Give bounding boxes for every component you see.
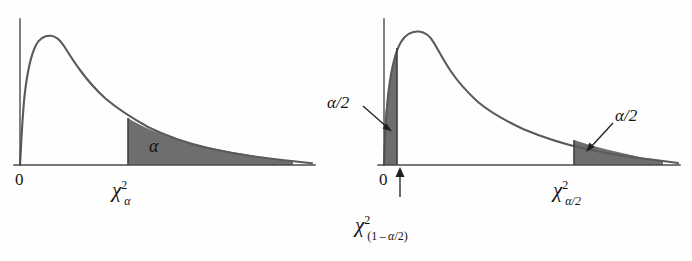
- right-alpha-half-label-right-panel: α/2: [615, 107, 637, 124]
- chi-subscript-left: α: [124, 194, 130, 208]
- alpha-area-label-left-panel: α: [149, 137, 158, 155]
- chi-glyph-upper-right: χ: [553, 178, 562, 202]
- chi-superscript-left: 2: [121, 178, 127, 192]
- chi-subscript-upper-right: α/2: [565, 194, 581, 208]
- left-alpha-half-label-right-panel: α/2: [327, 94, 349, 111]
- lower-critical-value-label-right-panel: χ2(1 – α/2): [355, 215, 411, 239]
- shaded-upper-tail-region-right-panel: [574, 140, 663, 165]
- critical-value-label-left-panel: χ2α: [112, 180, 134, 204]
- panel-one-tailed: [14, 19, 315, 165]
- chi-subscript-lower-right: (1 – α/2): [367, 229, 407, 243]
- chi-glyph-lower-right: χ: [355, 213, 364, 237]
- figure-canvas: [0, 0, 692, 261]
- origin-label-left-panel: 0: [15, 171, 24, 188]
- chi-square-density-curve-right: [384, 31, 678, 165]
- chi-glyph-left: χ: [112, 178, 121, 202]
- chi-superscript-upper-right: 2: [562, 178, 568, 192]
- chi-superscript-lower-right: 2: [364, 213, 370, 227]
- origin-label-right-panel: 0: [379, 171, 388, 188]
- shaded-lower-tail-region-right-panel: [384, 48, 397, 165]
- upper-critical-value-label-right-panel: χ2α/2: [553, 180, 584, 204]
- chi-square-figure: 0 α χ2α 0 α/2 α/2 χ2(1 – α/2) χ2α/2: [0, 0, 692, 261]
- lower-critical-value-arrow: [396, 167, 405, 197]
